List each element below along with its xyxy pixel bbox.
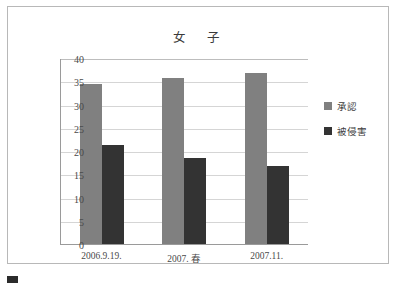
y-axis-tick-label: 40 bbox=[44, 54, 84, 65]
figure-marker-icon bbox=[7, 276, 18, 283]
y-axis-tick-label: 25 bbox=[44, 123, 84, 134]
legend-swatch-icon bbox=[324, 102, 332, 110]
bar-series-1[interactable] bbox=[162, 78, 184, 244]
bar-groups bbox=[61, 59, 308, 244]
chart-title: 女 子 bbox=[8, 27, 388, 46]
x-axis-tick-label: 2007. 春 bbox=[167, 251, 201, 265]
chart-legend: 承認被侵害 bbox=[324, 99, 367, 138]
y-axis-tick-label: 20 bbox=[44, 147, 84, 158]
y-axis-tick-label: 5 bbox=[44, 216, 84, 227]
y-axis-tick-label: 0 bbox=[44, 240, 84, 251]
legend-label: 承認 bbox=[337, 99, 357, 113]
x-axis-tick-label: 2007.11. bbox=[250, 251, 283, 261]
figure-caption bbox=[7, 276, 23, 283]
bar-series-2[interactable] bbox=[184, 158, 206, 244]
legend-label: 被侵害 bbox=[337, 124, 367, 138]
bar-series-1[interactable] bbox=[245, 73, 267, 244]
legend-item[interactable]: 被侵害 bbox=[324, 124, 367, 138]
y-axis-tick-label: 35 bbox=[44, 77, 84, 88]
y-axis-tick-label: 30 bbox=[44, 100, 84, 111]
bar-group bbox=[162, 59, 206, 244]
bar-group bbox=[245, 59, 289, 244]
chart-frame: 女 子 承認被侵害 05101520253035402006.9.19.2007… bbox=[7, 6, 389, 264]
bar-series-2[interactable] bbox=[102, 145, 124, 244]
legend-item[interactable]: 承認 bbox=[324, 99, 367, 113]
y-axis-tick-label: 10 bbox=[44, 193, 84, 204]
bar-group bbox=[80, 59, 124, 244]
y-axis-tick-label: 15 bbox=[44, 170, 84, 181]
plot-area bbox=[60, 59, 308, 245]
bar-series-2[interactable] bbox=[267, 166, 289, 244]
legend-swatch-icon bbox=[324, 127, 332, 135]
x-axis-tick-label: 2006.9.19. bbox=[81, 251, 121, 261]
